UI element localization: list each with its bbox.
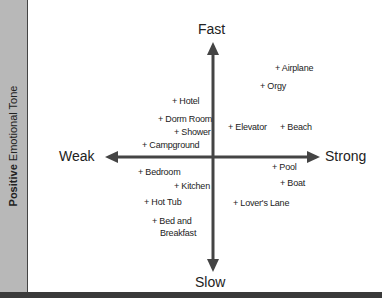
data-point-label: + Shower — [174, 127, 211, 138]
data-point-label: + Airplane — [275, 63, 313, 74]
axis-label-strong: Strong — [325, 148, 366, 164]
arrow-left-icon — [105, 151, 118, 163]
axis-label-fast: Fast — [198, 21, 225, 37]
arrow-right-icon — [307, 151, 320, 163]
data-point-label: + Elevator — [228, 122, 267, 133]
data-point-label: + Pool — [272, 162, 297, 173]
data-point-label: Breakfast — [160, 228, 196, 239]
arrow-down-icon — [207, 259, 219, 272]
axis-label-slow: Slow — [195, 274, 225, 290]
data-point-label: + Bed and — [152, 216, 192, 227]
data-point-label: + Boat — [280, 178, 305, 189]
data-point-label: + Bedroom — [138, 167, 180, 178]
arrow-up-icon — [207, 42, 219, 55]
data-point-label: + Dorm Room — [158, 114, 212, 125]
data-point-label: + Hotel — [172, 96, 199, 107]
data-point-label: + Hot Tub — [144, 197, 181, 208]
data-point-label: + Kitchen — [174, 181, 210, 192]
axis-label-weak: Weak — [59, 148, 95, 164]
data-point-label: + Campground — [142, 140, 199, 151]
data-point-label: + Beach — [280, 122, 312, 133]
data-point-label: + Orgy — [260, 81, 286, 92]
data-point-label: + Lover's Lane — [233, 198, 289, 209]
